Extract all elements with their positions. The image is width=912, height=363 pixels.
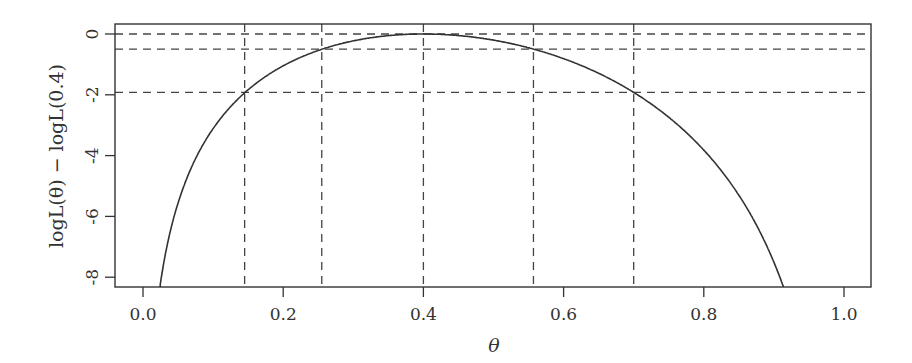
y-tick-label: -2: [82, 87, 102, 104]
y-tick-label: -8: [82, 269, 102, 286]
y-tick-label: 0: [82, 29, 102, 40]
x-tick-label: 0.8: [690, 304, 717, 324]
y-tick-label: -4: [82, 147, 102, 164]
reference-lines: [115, 24, 871, 287]
plot-frame: [115, 24, 871, 287]
x-tick-label: 1.0: [830, 304, 857, 324]
x-tick-label: 0.6: [550, 304, 577, 324]
x-tick-label: 0.4: [410, 304, 437, 324]
likelihood-curve: [160, 34, 784, 287]
x-tick-label: 0.2: [270, 304, 297, 324]
y-tick-label: -6: [82, 208, 102, 225]
y-axis-title: logL(θ) − logL(0.4): [45, 64, 67, 248]
x-axis-title: θ: [488, 334, 500, 356]
y-axis: 0-2-4-6-8: [82, 29, 115, 286]
x-axis: 0.00.20.40.60.81.0: [129, 287, 857, 324]
x-tick-label: 0.0: [129, 304, 156, 324]
likelihood-chart: 0.00.20.40.60.81.0 0-2-4-6-8 θ logL(θ) −…: [0, 0, 912, 363]
